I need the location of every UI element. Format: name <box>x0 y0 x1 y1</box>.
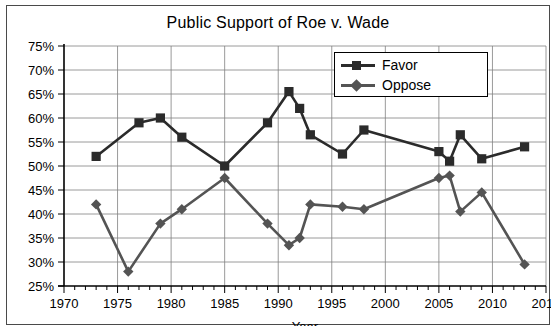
data-point-marker <box>359 204 369 214</box>
y-tick-label: 25% <box>28 279 54 294</box>
y-tick-label: 45% <box>28 183 54 198</box>
y-tick-label: 40% <box>28 207 54 222</box>
y-tick-label: 55% <box>28 135 54 150</box>
x-axis-title: Year <box>292 319 319 326</box>
data-point-marker <box>134 118 143 127</box>
x-tick-label: 1995 <box>317 296 346 311</box>
data-point-marker <box>156 113 165 122</box>
data-point-marker <box>284 87 293 96</box>
x-tick-label: 1975 <box>103 296 132 311</box>
data-point-marker <box>263 118 272 127</box>
data-point-marker <box>337 202 347 212</box>
data-point-marker <box>434 173 444 183</box>
square-marker-icon <box>352 61 361 70</box>
x-tick-label: 2000 <box>371 296 400 311</box>
data-point-marker <box>295 104 304 113</box>
data-point-marker <box>520 142 529 151</box>
x-tick-label: 2010 <box>478 296 507 311</box>
data-point-marker <box>92 152 101 161</box>
legend-item-favor: Favor <box>335 55 487 75</box>
y-tick-label: 70% <box>28 63 54 78</box>
y-tick-label: 30% <box>28 255 54 270</box>
data-point-marker <box>177 133 186 142</box>
data-point-marker <box>444 170 454 180</box>
y-tick-label: 50% <box>28 159 54 174</box>
diamond-marker-icon <box>350 79 363 92</box>
data-point-marker <box>306 130 315 139</box>
data-point-marker <box>220 161 229 170</box>
y-tick-label: 65% <box>28 87 54 102</box>
x-tick-label: 1985 <box>210 296 239 311</box>
y-tick-label: 35% <box>28 231 54 246</box>
data-point-marker <box>338 149 347 158</box>
x-tick-label: 1970 <box>50 296 79 311</box>
data-point-marker <box>305 199 315 209</box>
data-point-marker <box>91 199 101 209</box>
y-tick-label: 75% <box>28 39 54 54</box>
y-tick-label: 60% <box>28 111 54 126</box>
data-point-marker <box>477 154 486 163</box>
legend-label-favor: Favor <box>382 57 418 73</box>
data-point-marker <box>434 147 443 156</box>
oppose-series-icon <box>341 78 375 92</box>
x-tick-label: 2015 <box>532 296 551 311</box>
legend-label-oppose: Oppose <box>382 77 431 93</box>
x-tick-label: 2005 <box>424 296 453 311</box>
x-tick-label: 1980 <box>157 296 186 311</box>
chart-legend: Favor Oppose <box>334 52 488 97</box>
legend-item-oppose: Oppose <box>335 75 487 95</box>
data-point-marker <box>359 125 368 134</box>
data-point-marker <box>456 130 465 139</box>
favor-series-icon <box>341 58 375 72</box>
chart-frame: Public Support of Roe v. Wade 25%30%35%4… <box>6 5 550 325</box>
x-tick-label: 1990 <box>264 296 293 311</box>
data-point-marker <box>445 157 454 166</box>
